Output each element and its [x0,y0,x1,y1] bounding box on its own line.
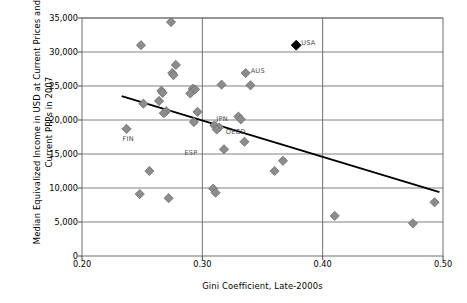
data-point [164,194,173,203]
data-point [135,190,144,199]
data-point [219,145,228,154]
data-point [330,211,339,220]
data-point-highlighted [291,40,301,50]
x-tick-label: 0.20 [73,259,91,269]
data-point [122,124,131,133]
data-point [139,99,148,108]
x-tick-label: 0.30 [193,259,211,269]
data-point-label: OECD [226,128,246,136]
data-point [430,198,439,207]
data-point [240,137,249,146]
data-point-label: AUS [251,67,265,75]
x-tick-label: 0.50 [434,259,452,269]
data-point-label: JPN [216,115,227,123]
x-tick-label: 0.40 [314,259,332,269]
data-point [171,60,180,69]
data-point-label: ESP [184,149,197,157]
scatter-chart: Median Equivalized Income in USD at Curr… [0,0,467,303]
data-point [154,96,163,105]
gridlines [82,18,443,256]
data-point [241,68,250,77]
x-axis-title: Gini Coefficient, Late-2000s [82,281,443,291]
data-point [408,219,417,228]
data-point-label: FIN [123,135,134,143]
plot-area [0,0,467,303]
data-points [122,17,439,227]
data-point [270,166,279,175]
data-point-label: USA [301,39,315,47]
data-point [278,156,287,165]
plot-frame [82,18,443,256]
data-point [246,81,255,90]
data-point [217,80,226,89]
data-point [145,166,154,175]
data-point [136,41,145,50]
data-point [193,107,202,116]
data-point [166,17,175,26]
